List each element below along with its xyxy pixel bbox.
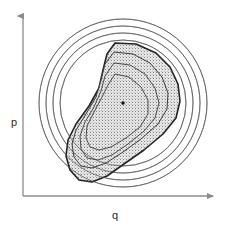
y-axis-label: p [11, 117, 17, 128]
distribution-blob-group [66, 43, 180, 182]
x-axis-label: q [112, 210, 118, 221]
center-point [121, 101, 125, 105]
phase-space-figure: p q [0, 0, 231, 229]
plot-canvas [0, 0, 231, 229]
